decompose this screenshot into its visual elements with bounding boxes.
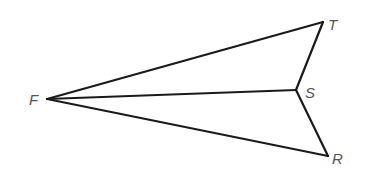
segment-ts [296,22,323,90]
point-label-s: S [305,84,315,101]
segments-group [47,22,328,156]
point-label-r: R [332,150,343,167]
segment-ft [47,22,323,99]
point-label-t: T [328,16,339,33]
point-label-f: F [29,91,39,108]
diagram-canvas: F T S R [0,0,367,173]
geometry-figure: F T S R [0,0,367,173]
segment-fr [47,99,328,156]
segment-fs [47,90,296,99]
